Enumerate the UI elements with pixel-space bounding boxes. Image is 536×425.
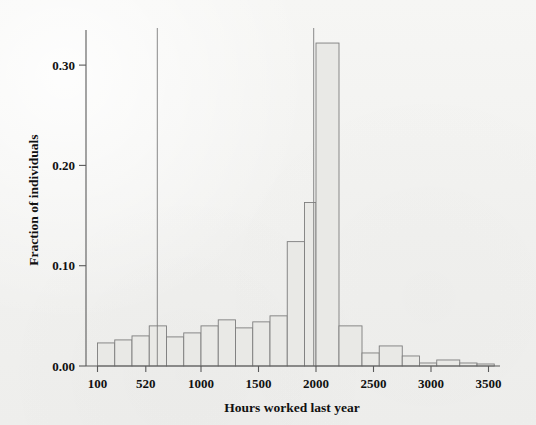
y-ticks-group: 0.000.100.200.30: [52, 58, 86, 374]
x-tick-label: 2000: [303, 376, 329, 391]
histogram-bar: [184, 333, 201, 366]
y-tick-label: 0.10: [52, 258, 75, 273]
x-tick-label: 520: [136, 376, 156, 391]
x-tick-label: 1500: [246, 376, 272, 391]
x-ticks-group: 100520100015002000250030003500: [88, 366, 502, 391]
histogram-bar: [305, 203, 317, 366]
histogram-bar: [253, 322, 270, 366]
histogram-figure: 0.000.100.200.30 10052010001500200025003…: [0, 0, 536, 425]
histogram-bar: [402, 356, 419, 366]
x-tick-label: 2500: [361, 376, 387, 391]
histogram-bar: [167, 337, 184, 366]
y-tick-label: 0.00: [52, 359, 75, 374]
y-tick-label: 0.20: [52, 158, 75, 173]
histogram-bar: [132, 336, 149, 366]
x-axis-title: Hours worked last year: [224, 400, 359, 415]
y-axis-title: Fraction of individuals: [26, 134, 41, 265]
histogram-bar: [218, 320, 235, 366]
histogram-bar: [270, 316, 287, 366]
histogram-bar: [98, 343, 115, 366]
histogram-bar: [115, 340, 132, 366]
x-tick-label: 1000: [188, 376, 214, 391]
histogram-bar: [316, 43, 339, 366]
histogram-bar: [149, 326, 166, 366]
histogram-bar: [287, 242, 304, 366]
histogram-bar: [362, 353, 379, 366]
histogram-bar: [379, 346, 402, 366]
histogram-bar: [339, 326, 362, 366]
x-tick-label: 100: [88, 376, 108, 391]
y-tick-label: 0.30: [52, 58, 75, 73]
x-tick-label: 3000: [418, 376, 444, 391]
histogram-bar: [236, 328, 253, 366]
x-tick-label: 3500: [476, 376, 502, 391]
histogram-bar: [201, 326, 218, 366]
histogram-plot: 0.000.100.200.30 10052010001500200025003…: [0, 0, 536, 425]
histogram-bar: [437, 360, 460, 366]
